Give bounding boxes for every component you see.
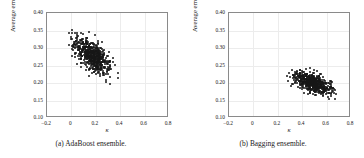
scatter-point: [74, 56, 76, 58]
scatter-point: [80, 58, 82, 60]
scatter-point: [102, 59, 104, 61]
scatter-point: [327, 82, 329, 84]
gridline-horizontal: [229, 48, 349, 49]
scatter-point: [107, 73, 109, 75]
scatter-point: [78, 45, 80, 47]
scatter-point: [96, 64, 98, 66]
x-axis-tick-label: −0.2: [218, 120, 238, 126]
scatter-point: [309, 92, 311, 94]
y-axis-tick: [46, 13, 47, 14]
scatter-point: [322, 95, 324, 97]
scatter-point: [101, 41, 103, 43]
scatter-point: [103, 74, 105, 76]
gridline-horizontal: [47, 48, 167, 49]
scatter-point: [300, 78, 302, 80]
y-axis-tick-label: 0.20: [205, 79, 225, 85]
y-axis-label-a: Average error: [9, 0, 17, 32]
scatter-point: [296, 82, 298, 84]
y-axis-tick-label: 0.35: [205, 27, 225, 33]
gridline-horizontal: [229, 66, 349, 67]
x-axis-tick: [71, 116, 72, 117]
scatter-point: [79, 48, 81, 50]
scatter-point: [311, 75, 313, 77]
scatter-point: [68, 32, 70, 34]
scatter-point: [117, 77, 119, 79]
y-axis-tick: [228, 66, 229, 67]
scatter-point: [82, 49, 84, 51]
scatter-point: [97, 55, 99, 57]
scatter-point: [297, 86, 299, 88]
scatter-point: [301, 88, 303, 90]
scatter-point: [87, 55, 89, 57]
scatter-point: [289, 76, 291, 78]
scatter-point: [105, 57, 107, 59]
y-axis-tick: [228, 101, 229, 102]
panel-adaboost: Average error κ (a) AdaBoost ensemble. −…: [0, 0, 182, 158]
x-axis-tick: [302, 116, 303, 117]
scatter-point: [307, 93, 309, 95]
scatter-point: [331, 87, 333, 89]
gridline-horizontal: [229, 101, 349, 102]
scatter-point: [117, 72, 119, 74]
scatter-point: [324, 88, 326, 90]
scatter-point: [287, 80, 289, 82]
scatter-point: [108, 69, 110, 71]
x-axis-label-a: κ: [46, 126, 168, 134]
scatter-point: [292, 83, 294, 85]
scatter-point: [80, 40, 82, 42]
scatter-point: [286, 75, 288, 77]
scatter-point: [322, 76, 324, 78]
panel-bagging: Average error κ (b) Bagging ensemble. −0…: [182, 0, 364, 158]
scatter-point: [326, 92, 328, 94]
scatter-point: [112, 61, 114, 63]
scatter-point: [71, 32, 73, 34]
plot-area-bagging: [228, 12, 350, 117]
scatter-point: [327, 96, 329, 98]
scatter-point: [81, 51, 83, 53]
scatter-point: [110, 68, 112, 70]
scatter-point: [330, 95, 332, 97]
scatter-point: [109, 83, 111, 85]
x-axis-tick-label: 0: [60, 120, 80, 126]
scatter-point: [112, 57, 114, 59]
scatter-point: [315, 94, 317, 96]
scatter-point: [313, 72, 315, 74]
y-axis-tick-label: 0.30: [23, 44, 43, 50]
scatter-point: [105, 79, 107, 81]
scatter-point: [92, 66, 94, 68]
figure-container: Average error κ (a) AdaBoost ensemble. −…: [0, 0, 364, 158]
y-axis-tick: [228, 31, 229, 32]
y-axis-tick-label: 0.35: [23, 27, 43, 33]
x-axis-tick-label: 0.6: [316, 120, 336, 126]
scatter-point: [70, 38, 72, 40]
y-axis-tick-label: 0.30: [205, 44, 225, 50]
scatter-point: [79, 53, 81, 55]
scatter-point: [318, 75, 320, 77]
x-axis-tick-label: 0.8: [340, 120, 360, 126]
scatter-point: [303, 92, 305, 94]
scatter-point: [109, 61, 111, 63]
plot-area-adaboost: [46, 12, 168, 117]
x-axis-tick-label: 0.8: [158, 120, 178, 126]
scatter-point: [103, 49, 105, 51]
scatter-point: [114, 64, 116, 66]
scatter-point: [288, 72, 290, 74]
scatter-point: [76, 32, 78, 34]
gridline-horizontal: [47, 31, 167, 32]
scatter-point: [305, 68, 307, 70]
scatter-point: [82, 41, 84, 43]
y-axis-tick-label: 0.15: [205, 97, 225, 103]
x-axis-tick: [47, 116, 48, 117]
scatter-point: [104, 67, 106, 69]
gridline-horizontal: [47, 83, 167, 84]
scatter-point: [301, 86, 303, 88]
scatter-point: [316, 70, 318, 72]
y-axis-tick: [46, 31, 47, 32]
y-axis-tick-label: 0.40: [205, 9, 225, 15]
scatter-point: [312, 93, 314, 95]
scatter-point: [295, 72, 297, 74]
x-axis-tick: [120, 116, 121, 117]
scatter-point: [321, 87, 323, 89]
scatter-point: [108, 51, 110, 53]
scatter-point: [299, 76, 301, 78]
